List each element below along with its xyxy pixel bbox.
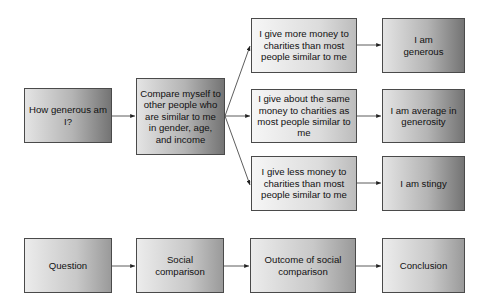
- stage-label: Question: [49, 260, 87, 271]
- question-box: How generous am I?: [24, 88, 112, 143]
- stage-box-social-comparison: Social comparison: [136, 238, 224, 293]
- outcome-box-same: I give about the same money to charities…: [251, 89, 357, 143]
- conclusion-text: I am stingy: [400, 178, 446, 189]
- outcome-text: I give less money to charities than most…: [255, 166, 353, 200]
- comparison-text: Compare myself to other people who are s…: [140, 88, 221, 145]
- stage-box-question: Question: [24, 238, 112, 293]
- conclusion-box-stingy: I am stingy: [382, 156, 465, 211]
- conclusion-text: I am average in generosity: [386, 105, 461, 128]
- conclusion-box-average: I am average in generosity: [382, 89, 465, 143]
- stage-box-conclusion: Conclusion: [382, 238, 465, 293]
- conclusion-box-generous: I am generous: [382, 18, 465, 73]
- outcome-text: I give more money to charities than most…: [255, 28, 353, 62]
- conclusion-text: I am generous: [386, 34, 461, 57]
- comparison-box: Compare myself to other people who are s…: [136, 78, 225, 155]
- stage-box-outcome: Outcome of social comparison: [250, 238, 356, 293]
- stage-label: Outcome of social comparison: [254, 254, 352, 277]
- question-text: How generous am I?: [28, 104, 108, 127]
- stage-label: Conclusion: [400, 260, 447, 271]
- outcome-text: I give about the same money to charities…: [255, 93, 353, 139]
- outcome-box-more: I give more money to charities than most…: [251, 18, 357, 73]
- outcome-box-less: I give less money to charities than most…: [251, 156, 357, 211]
- stage-label: Social comparison: [140, 254, 220, 277]
